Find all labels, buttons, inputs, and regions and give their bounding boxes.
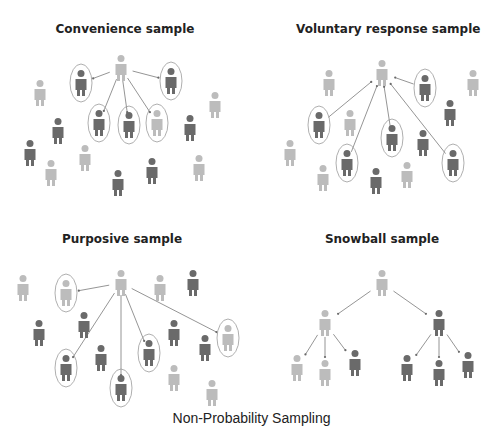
arrow-line: [93, 72, 110, 78]
referred-person-icon: [434, 310, 445, 336]
selected-person-icon: [94, 110, 105, 136]
seed-person-icon: [377, 270, 388, 296]
selected-person-icon: [144, 340, 155, 366]
referred-person-icon: [434, 360, 445, 386]
arrow-line: [416, 334, 431, 355]
researcher-person-icon: [116, 270, 127, 296]
person-icon: [169, 365, 180, 391]
referred-person-icon: [292, 355, 303, 381]
person-icon: [113, 170, 124, 196]
selected-person-icon: [223, 325, 234, 351]
person-icon: [194, 155, 205, 181]
arrow-line: [79, 285, 109, 291]
arrow-line: [333, 334, 345, 350]
person-icon: [207, 380, 218, 406]
person-icon: [188, 270, 199, 296]
referred-person-icon: [350, 350, 361, 376]
person-icon: [402, 162, 413, 188]
researcher-person-icon: [377, 60, 388, 86]
selected-person-icon: [61, 280, 72, 306]
selected-person-icon: [314, 112, 325, 138]
arrow-line: [133, 71, 159, 78]
selected-person-icon: [342, 150, 353, 176]
person-icon: [445, 100, 456, 126]
arrow-line: [395, 78, 413, 84]
selected-person-icon: [124, 112, 135, 138]
person-icon: [34, 320, 45, 346]
person-icon: [169, 320, 180, 346]
arrow-line: [104, 79, 117, 111]
person-icon: [200, 335, 211, 361]
referred-person-icon: [320, 360, 331, 386]
person-icon: [468, 70, 479, 96]
person-icon: [371, 168, 382, 194]
person-icon: [318, 165, 329, 191]
referred-person-icon: [463, 352, 474, 378]
person-icon: [46, 160, 57, 186]
arrow-line: [338, 291, 370, 314]
person-icon: [185, 115, 196, 141]
selected-person-icon: [116, 375, 127, 401]
person-icon: [96, 345, 107, 371]
selected-person-icon: [420, 75, 431, 101]
sampling-diagram: [0, 0, 503, 434]
selected-person-icon: [76, 70, 87, 96]
referred-person-icon: [402, 355, 413, 381]
arrow-line: [384, 87, 390, 126]
selected-person-icon: [166, 68, 177, 94]
person-icon: [418, 130, 429, 156]
arrow-line: [447, 335, 459, 352]
person-icon: [285, 140, 296, 166]
selected-person-icon: [61, 355, 72, 381]
diagram-caption: Non-Probability Sampling: [0, 410, 503, 426]
arrow-line: [351, 86, 377, 152]
person-icon: [53, 118, 64, 144]
person-icon: [324, 70, 335, 96]
arrow-line: [128, 78, 150, 112]
selection-ellipses: [55, 62, 464, 407]
person-icon: [25, 140, 36, 166]
arrow-line: [393, 291, 425, 314]
person-icon: [155, 275, 166, 301]
person-icon: [210, 92, 221, 118]
person-icon: [79, 312, 90, 338]
person-icon: [80, 145, 91, 171]
researcher-person-icon: [116, 55, 127, 81]
person-icon: [35, 80, 46, 106]
arrow-line: [125, 294, 144, 341]
person-icon: [345, 110, 356, 136]
selected-person-icon: [387, 125, 398, 151]
person-icon: [18, 275, 29, 301]
referred-person-icon: [320, 310, 331, 336]
selected-person-icon: [448, 150, 459, 176]
arrow-line: [305, 335, 317, 355]
selected-person-icon: [152, 110, 163, 136]
person-icon: [147, 158, 158, 184]
